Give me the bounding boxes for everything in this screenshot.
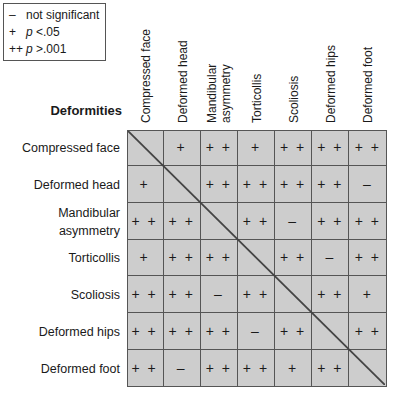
column-header: Scoliosis [276,0,313,125]
row-label-text: Scoliosis [71,286,120,304]
row-label-text: Torticollis [69,249,120,267]
column-header-label: Deformed head [176,40,189,123]
row-label: Deformed hips [0,314,120,351]
legend-symbol: – [9,7,26,24]
row-label-line: Deformed hips [39,323,120,341]
column-header-label: Mandibular [206,64,219,123]
column-header: Deformed head [164,0,201,125]
row-label-line: Deformed foot [41,360,120,378]
row-label-text: Deformed hips [39,323,120,341]
legend-item: –not significant [9,7,100,24]
deformities-heading: Deformities [50,103,122,118]
legend-item: ++p >.001 [9,41,100,58]
row-label: Mandibularasymmetry [0,203,120,240]
legend-symbol: ++ [9,41,26,58]
column-header: Torticollis [238,0,275,125]
legend-text: not significant [26,8,99,22]
row-label-line: Scoliosis [71,286,120,304]
row-label: Deformed head [0,167,120,204]
p-value-symbol: p [26,25,33,39]
column-header: Mandibularasymmetry [201,0,238,125]
row-label-line: Mandibular [58,204,120,222]
column-header-label: asymmetry [220,64,233,123]
row-label-text: Deformed head [34,176,120,194]
column-header-label: Torticollis [250,74,263,123]
diagonal-line [128,131,385,385]
column-header-label: Deformed foot [362,47,375,123]
row-label-line: asymmetry [58,222,120,240]
legend-description: p <.05 [26,24,60,41]
row-label-line: Deformed head [34,176,120,194]
row-label: Compressed face [0,130,120,167]
column-header: Deformed foot [350,0,387,125]
p-value-symbol: p [26,42,33,56]
column-header-label: Scoliosis [288,76,301,123]
row-label-text: Compressed face [22,139,120,157]
row-label-text: Deformed foot [41,360,120,378]
column-header: Compressed face [127,0,164,125]
legend-text: >.001 [33,42,67,56]
row-label: Scoliosis [0,277,120,314]
row-label: Torticollis [0,240,120,277]
row-label-text: Mandibularasymmetry [58,204,120,240]
column-header-label: Compressed face [139,29,152,123]
column-header: Deformed hips [313,0,350,125]
row-label-line: Torticollis [69,249,120,267]
column-header-label: Deformed hips [325,45,338,123]
legend-description: p >.001 [26,41,66,58]
significance-matrix: ++ +++ ++ ++ +++ ++ ++ ++ +–+ ++ ++ +–+ … [127,130,387,387]
legend-symbol: + [9,24,26,41]
legend-text: <.05 [33,25,60,39]
legend-item: +p <.05 [9,24,100,41]
row-label-line: Compressed face [22,139,120,157]
legend-description: not significant [26,7,99,24]
row-label: Deformed foot [0,350,120,387]
legend: –not significant+p <.05++p >.001 [3,3,106,61]
